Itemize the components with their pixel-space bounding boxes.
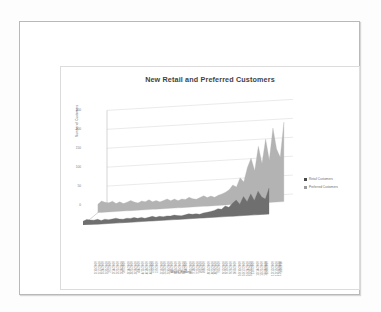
x-tick-label: 11/7/2009	[251, 261, 255, 274]
scanned-page: New Retail and Preferred Customers Numbe…	[0, 0, 381, 312]
legend-item[interactable]: Retail Customers	[304, 177, 358, 181]
x-axis-title: Week Ending	[121, 270, 241, 274]
plot-area	[83, 95, 293, 225]
chart-title: New Retail and Preferred Customers	[61, 75, 359, 84]
legend-label: Retail Customers	[309, 177, 333, 181]
x-axis-tick-labels: 1/10/20091/17/20091/24/20091/31/20092/7/…	[83, 225, 297, 267]
x-tick-label: 2/7/2009	[107, 261, 111, 273]
y-tick-label: 200	[76, 127, 81, 131]
page-frame: New Retail and Preferred Customers Numbe…	[19, 21, 360, 295]
legend-swatch-icon	[304, 186, 307, 189]
y-tick-label: 50	[77, 184, 81, 188]
y-axis-tick-labels: 250200150100500	[61, 93, 81, 227]
y-tick-label: 0	[79, 203, 81, 207]
legend-swatch-icon	[304, 178, 307, 181]
area-chart-svg	[83, 95, 293, 225]
x-tick-label: 12/5/2009	[266, 261, 270, 274]
chart-object[interactable]: New Retail and Preferred Customers Numbe…	[60, 66, 360, 290]
x-tick-label: 1/2/2010	[279, 261, 283, 273]
y-tick-label: 250	[76, 108, 81, 112]
y-tick-label: 100	[76, 165, 81, 169]
chart-legend[interactable]: Retail CustomersPreferred Customers	[304, 177, 358, 193]
legend-item[interactable]: Preferred Customers	[304, 185, 358, 189]
y-tick-label: 150	[76, 146, 81, 150]
legend-label: Preferred Customers	[309, 185, 338, 189]
